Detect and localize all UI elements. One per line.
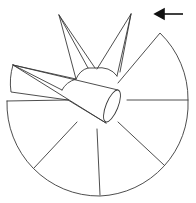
left-wedge: [10, 65, 76, 100]
radial-line: [118, 122, 164, 165]
object-figure: [0, 0, 196, 203]
radial-line: [34, 122, 77, 168]
arrow-left-icon: [155, 9, 183, 19]
radial-line: [97, 129, 100, 195]
right-spike: [97, 14, 131, 76]
diagram-canvas: [0, 0, 196, 203]
disc-sector: [7, 33, 188, 196]
left-spike: [59, 15, 95, 79]
